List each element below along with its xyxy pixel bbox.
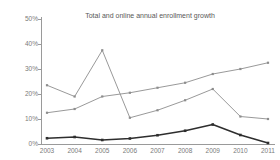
data-point-marker: [101, 49, 103, 51]
chart-series-layer: [0, 0, 280, 160]
series-line: [47, 125, 268, 144]
data-point-marker: [101, 139, 104, 142]
data-point-marker: [184, 99, 186, 101]
data-point-marker: [101, 95, 103, 97]
data-point-marker: [129, 137, 132, 140]
data-point-marker: [129, 92, 131, 94]
data-point-marker: [46, 112, 48, 114]
data-point-marker: [239, 68, 241, 70]
data-point-marker: [74, 108, 76, 110]
data-point-marker: [156, 109, 158, 111]
series-series-dark: [46, 123, 270, 144]
data-point-marker: [239, 134, 242, 137]
data-point-marker: [156, 87, 158, 89]
data-point-marker: [74, 95, 76, 97]
data-point-marker: [129, 117, 131, 119]
data-point-marker: [267, 62, 269, 64]
data-point-marker: [184, 129, 187, 132]
data-point-marker: [212, 88, 214, 90]
data-point-marker: [156, 134, 159, 137]
data-point-marker: [239, 115, 241, 117]
data-point-marker: [73, 136, 76, 139]
data-point-marker: [211, 123, 214, 126]
data-point-marker: [267, 142, 270, 145]
data-point-marker: [212, 73, 214, 75]
series-series-light-gray: [46, 49, 269, 120]
data-point-marker: [184, 82, 186, 84]
data-point-marker: [46, 84, 48, 86]
chart-container: Total and online annual enrollment growt…: [0, 0, 280, 160]
series-line: [47, 50, 268, 119]
data-point-marker: [267, 118, 269, 120]
data-point-marker: [46, 137, 49, 140]
